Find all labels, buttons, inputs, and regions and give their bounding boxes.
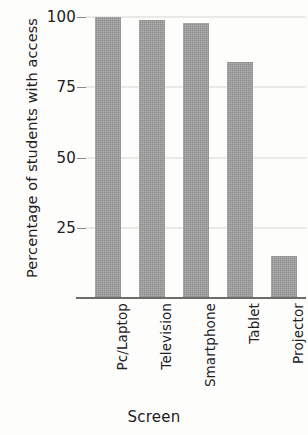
plot-area — [86, 6, 306, 298]
x-tick-label: Tablet — [246, 303, 262, 344]
bar — [183, 23, 209, 298]
bar — [139, 20, 165, 298]
y-tick-mark — [77, 158, 86, 159]
x-tick-label: Smartphone — [202, 303, 218, 387]
bar — [227, 62, 253, 298]
x-axis-line — [76, 297, 306, 299]
y-tick-label: 100 — [30, 8, 76, 26]
x-tick-label: Television — [158, 303, 174, 370]
y-tick-label: 50 — [30, 149, 76, 167]
y-tick-label: 25 — [30, 219, 76, 237]
bar-chart: Percentage of students with access 100 7… — [0, 0, 308, 435]
y-tick-mark — [77, 87, 86, 88]
y-tick-mark — [77, 17, 86, 18]
x-tick-label: Projector — [290, 303, 306, 364]
y-axis-tick-labels: 100 75 50 25 — [30, 0, 76, 435]
x-tick-label: Pc/Laptop — [114, 303, 130, 371]
x-axis-title: Screen — [0, 408, 308, 426]
bar — [271, 256, 297, 298]
y-tick-label: 75 — [30, 78, 76, 96]
y-tick-mark — [77, 228, 86, 229]
bar — [95, 17, 121, 298]
